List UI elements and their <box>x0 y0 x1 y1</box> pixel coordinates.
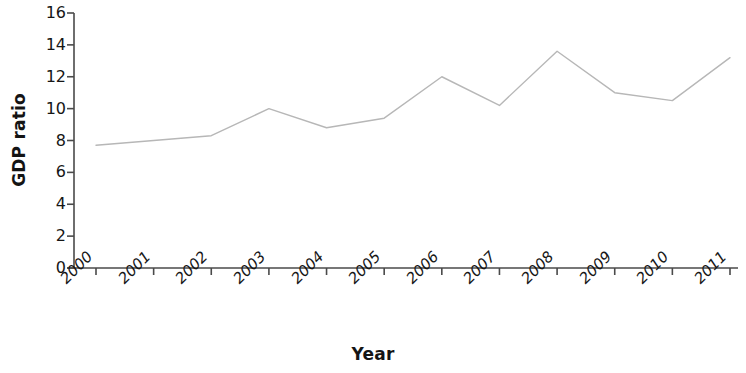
chart-figure: GDP ratio 0246810121416 2000200120022003… <box>0 0 746 373</box>
x-tick-label: 2008 <box>519 249 557 287</box>
x-tick-label: 2000 <box>58 249 96 287</box>
x-tick-label: 2002 <box>173 249 211 287</box>
x-tick-label: 2003 <box>231 249 269 287</box>
x-tick-label: 2005 <box>346 249 384 287</box>
x-axis-title: Year <box>0 344 746 364</box>
x-tick-label: 2006 <box>404 249 442 287</box>
x-tick-label: 2007 <box>461 249 499 287</box>
x-tick-label: 2010 <box>634 249 672 287</box>
x-tick-label: 2011 <box>692 249 730 287</box>
x-tick-label: 2004 <box>289 249 327 287</box>
x-axis-tick-labels: 2000200120022003200420052006200720082009… <box>0 0 746 373</box>
x-tick-label: 2001 <box>116 249 154 287</box>
x-tick-label: 2009 <box>577 249 615 287</box>
